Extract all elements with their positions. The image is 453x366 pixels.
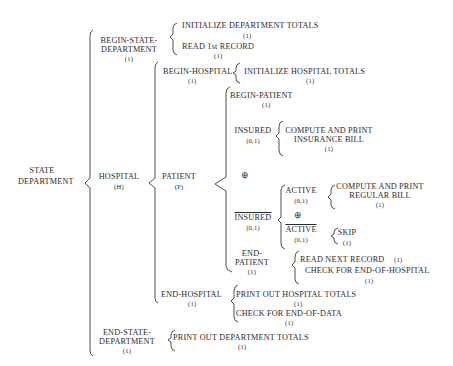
hospital-count: (H)	[96, 184, 142, 191]
compute-insurance-line1: COMPUTE AND PRINT	[283, 127, 375, 135]
skip-count: (1)	[337, 240, 357, 247]
begin-patient-count: (1)	[262, 102, 270, 109]
print-department-totals: PRINT OUT DEPARTMENT TOTALS	[173, 334, 309, 342]
check-end-of-hospital: CHECK FOR END-OF-HOSPITAL	[305, 267, 429, 275]
compute-regular-bill: COMPUTE AND PRINT REGULAR BILL (1)	[334, 183, 426, 209]
not-active-count: (0,1)	[284, 237, 318, 244]
compute-regular-count: (1)	[334, 202, 426, 209]
root-line1: STATE	[18, 167, 66, 175]
insured-count: (0,1)	[232, 138, 274, 145]
begin-hospital-count: (1)	[188, 78, 196, 85]
xor-icon-2: ⊕	[294, 211, 302, 220]
begin-patient: BEGIN-PATIENT	[230, 92, 293, 100]
root-line2: DEPARTMENT	[18, 178, 66, 186]
check-end-of-hospital-count: (1)	[365, 278, 373, 285]
active-label: ACTIVE	[284, 187, 318, 195]
check-end-of-data-count: (1)	[285, 320, 293, 327]
end-hospital: END-HOSPITAL	[161, 291, 222, 299]
root-label: STATE DEPARTMENT	[18, 167, 66, 186]
hospital-name: HOSPITAL	[96, 173, 142, 181]
end-hospital-count: (1)	[188, 301, 196, 308]
compute-insurance-bill: COMPUTE AND PRINT INSURANCE BILL (1)	[283, 127, 375, 153]
print-hospital-totals-count: (1)	[294, 301, 302, 308]
brace-begin-hospital	[233, 63, 240, 83]
end-patient-line1: END-	[234, 250, 270, 258]
begin-state-line2: DEPARTMENT	[96, 46, 162, 54]
begin-hospital: BEGIN-HOSPITAL	[163, 68, 232, 76]
read-next-record: READ NEXT RECORD	[300, 256, 384, 264]
begin-state-line1: BEGIN-STATE-	[96, 37, 162, 45]
end-state-department: END-STATE- DEPARTMENT (1)	[96, 329, 158, 355]
brace-begin-state	[170, 23, 177, 55]
read-first-record-count: (1)	[214, 53, 222, 60]
end-state-line1: END-STATE-	[96, 329, 158, 337]
end-patient-line2: PATIENT	[234, 259, 270, 267]
active: ACTIVE (0,1)	[284, 187, 318, 205]
end-state-count: (1)	[96, 348, 158, 355]
skip: SKIP (1)	[337, 229, 357, 247]
read-first-record: READ 1st RECORD	[182, 43, 254, 51]
read-next-record-count: (1)	[394, 257, 402, 264]
initialize-hospital-totals: INITIALIZE HOSPITAL TOTALS	[244, 68, 365, 76]
active-count: (0,1)	[284, 198, 318, 205]
bracket-state-department	[85, 30, 93, 356]
hospital-label: HOSPITAL (H)	[96, 173, 142, 191]
compute-regular-line2: REGULAR BILL	[334, 192, 426, 200]
compute-insurance-line2: INSURANCE BILL	[283, 136, 375, 144]
not-insured-count: (0,1)	[232, 225, 274, 232]
initialize-department-totals-count: (1)	[243, 33, 251, 40]
end-state-line2: DEPARTMENT	[96, 338, 158, 346]
end-patient-count: (1)	[234, 269, 270, 276]
begin-state-department: BEGIN-STATE- DEPARTMENT (1)	[96, 37, 162, 63]
insured: INSURED (0,1)	[232, 127, 274, 145]
not-insured-label: INSURED	[232, 214, 274, 222]
print-department-totals-count: (1)	[238, 344, 246, 351]
not-active: ACTIVE (0,1)	[284, 226, 318, 244]
bracket-hospital	[149, 62, 158, 303]
compute-insurance-count: (1)	[283, 146, 375, 153]
patient-label: PATIENT (P)	[160, 173, 198, 191]
insured-label: INSURED	[232, 127, 274, 135]
end-patient: END- PATIENT (1)	[234, 250, 270, 276]
begin-state-count: (1)	[96, 56, 162, 63]
patient-name: PATIENT	[160, 173, 198, 181]
skip-label: SKIP	[337, 229, 357, 237]
print-hospital-totals: PRINT OUT HOSPITAL TOTALS	[236, 291, 356, 299]
bracket-patient	[215, 87, 232, 272]
not-insured: INSURED (0,1)	[232, 214, 274, 232]
brace-end-patient	[292, 251, 299, 284]
initialize-hospital-totals-count: (1)	[306, 78, 314, 85]
xor-icon: ⊕	[241, 171, 249, 180]
patient-count: (P)	[160, 184, 198, 191]
not-active-label: ACTIVE	[284, 226, 318, 234]
compute-regular-line1: COMPUTE AND PRINT	[334, 183, 426, 191]
initialize-department-totals: INITIALIZE DEPARTMENT TOTALS	[182, 22, 319, 30]
brace-insured	[276, 121, 283, 156]
check-end-of-data: CHECK FOR END-OF-DATA	[236, 310, 342, 318]
